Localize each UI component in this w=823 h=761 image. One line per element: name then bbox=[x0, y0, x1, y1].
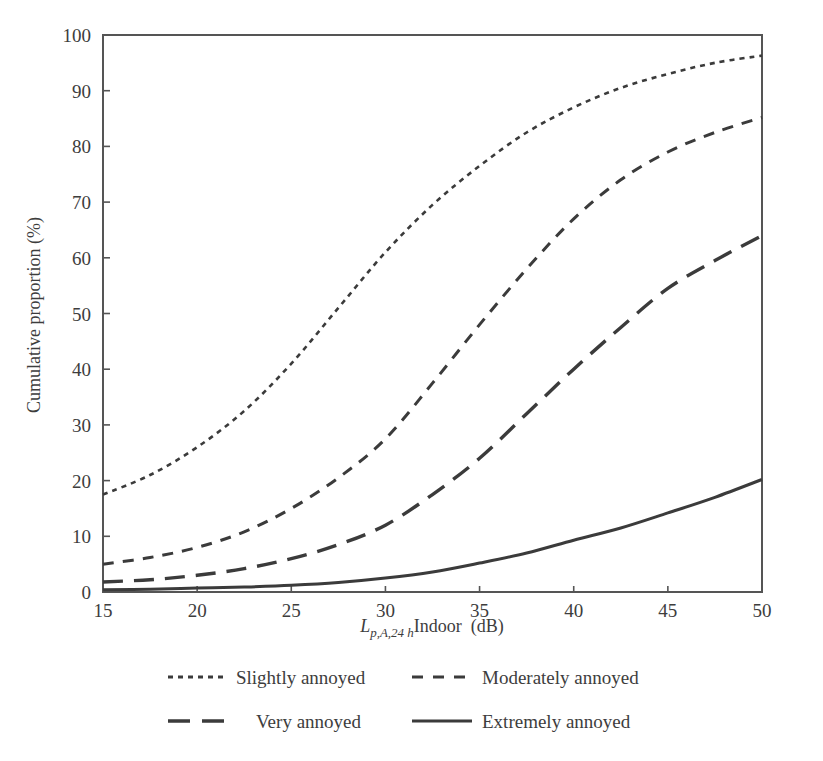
x-tick-label: 15 bbox=[94, 600, 113, 621]
x-axis-title-rest: Indoor (dB) bbox=[414, 616, 504, 637]
y-tick-label: 40 bbox=[72, 359, 91, 380]
plot-frame bbox=[103, 35, 762, 592]
x-tick-label: 25 bbox=[282, 600, 301, 621]
y-axis-ticks bbox=[103, 35, 110, 592]
curve-very-annoyed bbox=[103, 236, 762, 582]
x-axis-title-base: L bbox=[359, 616, 370, 636]
y-tick-label: 70 bbox=[72, 192, 91, 213]
legend-label-very-annoyed: Very annoyed bbox=[256, 711, 361, 732]
curve-moderately-annoyed bbox=[103, 117, 762, 564]
x-tick-label: 50 bbox=[753, 600, 772, 621]
x-tick-label: 45 bbox=[658, 600, 677, 621]
legend-label-slightly-annoyed: Slightly annoyed bbox=[236, 667, 366, 688]
curve-slightly-annoyed bbox=[103, 56, 762, 495]
chart-figure: 0102030405060708090100 1520253035404550 … bbox=[0, 0, 823, 761]
x-tick-label: 20 bbox=[188, 600, 207, 621]
y-tick-label: 0 bbox=[82, 582, 92, 603]
y-axis-tick-labels: 0102030405060708090100 bbox=[63, 25, 92, 603]
legend-entry-slightly-annoyed[interactable]: Slightly annoyed bbox=[168, 667, 366, 688]
y-axis-title: Cumulative proportion (%) bbox=[24, 217, 45, 413]
chart-svg: 0102030405060708090100 1520253035404550 … bbox=[0, 0, 823, 761]
y-tick-label: 90 bbox=[72, 81, 91, 102]
y-tick-label: 60 bbox=[72, 248, 91, 269]
legend-label-moderately-annoyed: Moderately annoyed bbox=[482, 667, 639, 688]
x-axis-title-subscript: p,A,24 h bbox=[369, 625, 414, 640]
chart-legend: Slightly annoyed Moderately annoyed Very… bbox=[168, 667, 639, 732]
y-tick-label: 50 bbox=[72, 304, 91, 325]
y-tick-label: 80 bbox=[72, 136, 91, 157]
legend-entry-extremely-annoyed[interactable]: Extremely annoyed bbox=[412, 711, 631, 732]
y-tick-label: 10 bbox=[72, 526, 91, 547]
y-tick-label: 100 bbox=[63, 25, 92, 46]
x-tick-label: 40 bbox=[564, 600, 583, 621]
y-tick-label: 20 bbox=[72, 471, 91, 492]
chart-curves bbox=[103, 56, 762, 590]
y-tick-label: 30 bbox=[72, 415, 91, 436]
legend-label-extremely-annoyed: Extremely annoyed bbox=[482, 711, 631, 732]
legend-entry-moderately-annoyed[interactable]: Moderately annoyed bbox=[412, 667, 639, 688]
x-tick-label: 30 bbox=[376, 600, 395, 621]
legend-entry-very-annoyed[interactable]: Very annoyed bbox=[168, 711, 361, 732]
